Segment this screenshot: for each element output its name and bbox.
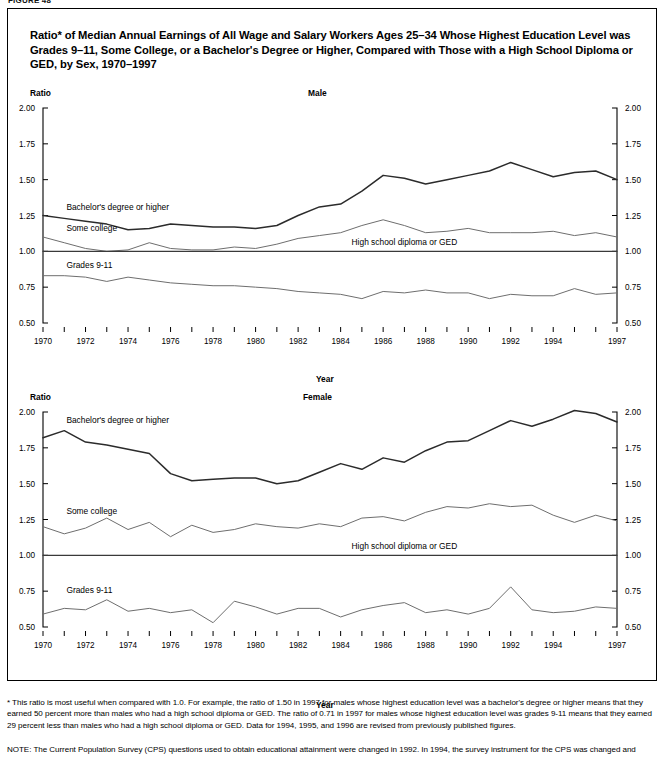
y-tick-label: 1.25	[625, 516, 641, 525]
series-line	[43, 504, 617, 537]
y-tick-label: 2.00	[19, 104, 35, 113]
y-tick-label: 1.75	[625, 444, 641, 453]
figure-number: FIGURE 48	[8, 0, 51, 5]
year-label-male: Year	[316, 374, 334, 384]
y-tick-label: 0.75	[625, 283, 641, 292]
x-tick-label: 1970	[34, 337, 53, 346]
y-tick-label: 0.50	[625, 319, 641, 328]
y-tick-label: 0.50	[19, 623, 35, 632]
x-tick-label: 1992	[502, 641, 521, 650]
y-tick-label: 0.75	[625, 587, 641, 596]
x-tick-label: 1984	[332, 337, 351, 346]
y-tick-label: 2.00	[625, 104, 641, 113]
ratio-label-female: Ratio	[30, 392, 51, 402]
x-tick-label: 1972	[76, 337, 95, 346]
series-line	[43, 162, 617, 229]
x-tick-label: 1978	[204, 337, 223, 346]
x-tick-label: 1990	[459, 337, 478, 346]
y-tick-label: 1.50	[19, 480, 35, 489]
x-tick-label: 1984	[332, 641, 351, 650]
y-tick-label: 1.75	[19, 444, 35, 453]
series-line	[43, 587, 617, 623]
series-label: Grades 9-11	[66, 260, 112, 270]
x-tick-label: 1994	[544, 641, 563, 650]
x-tick-label: 1997	[608, 337, 627, 346]
series-label: Some college	[66, 506, 117, 516]
series-line	[43, 220, 617, 252]
y-tick-label: 0.75	[19, 587, 35, 596]
y-tick-label: 2.00	[19, 408, 35, 417]
y-tick-label: 0.50	[19, 319, 35, 328]
x-tick-label: 1976	[161, 337, 180, 346]
x-tick-label: 1988	[417, 337, 436, 346]
series-line	[43, 276, 617, 299]
ratio-label-male: Ratio	[30, 88, 51, 98]
note-text: NOTE: The Current Population Survey (CPS…	[7, 744, 663, 761]
y-tick-label: 1.00	[19, 247, 35, 256]
panel-label-female: Female	[303, 392, 332, 402]
x-tick-label: 1978	[204, 641, 223, 650]
y-tick-label: 0.50	[625, 623, 641, 632]
y-tick-label: 1.25	[19, 516, 35, 525]
y-tick-label: 1.25	[625, 212, 641, 221]
series-label: Some college	[66, 223, 117, 233]
y-tick-label: 0.75	[19, 283, 35, 292]
x-tick-label: 1997	[608, 641, 627, 650]
x-tick-label: 1994	[544, 337, 563, 346]
series-label: High school diploma or GED	[352, 237, 458, 247]
y-tick-label: 1.00	[625, 247, 641, 256]
y-tick-label: 1.75	[19, 140, 35, 149]
x-tick-label: 1976	[161, 641, 180, 650]
x-tick-label: 1982	[289, 641, 308, 650]
x-tick-label: 1988	[417, 641, 436, 650]
y-tick-label: 2.00	[625, 408, 641, 417]
x-tick-label: 1974	[119, 337, 138, 346]
series-label: Bachelor's degree or higher	[66, 415, 169, 425]
y-tick-label: 1.25	[19, 212, 35, 221]
female-chart: 0.500.500.750.751.001.001.251.251.501.50…	[0, 392, 663, 692]
x-tick-label: 1980	[246, 337, 265, 346]
x-tick-label: 1980	[246, 641, 265, 650]
y-tick-label: 1.00	[19, 551, 35, 560]
x-tick-label: 1970	[34, 641, 53, 650]
x-tick-label: 1986	[374, 641, 393, 650]
x-tick-label: 1982	[289, 337, 308, 346]
page-title: Ratio* of Median Annual Earnings of All …	[30, 28, 638, 72]
y-tick-label: 1.00	[625, 551, 641, 560]
series-label: High school diploma or GED	[352, 541, 458, 551]
x-tick-label: 1990	[459, 641, 478, 650]
x-tick-label: 1986	[374, 337, 393, 346]
footnote-text: * This ratio is most useful when compare…	[7, 697, 655, 731]
y-tick-label: 1.50	[625, 176, 641, 185]
male-chart: 0.500.500.750.751.001.001.251.251.501.50…	[0, 88, 663, 388]
y-tick-label: 1.50	[625, 480, 641, 489]
panel-label-male: Male	[308, 88, 327, 98]
series-label: Grades 9-11	[66, 585, 112, 595]
x-tick-label: 1974	[119, 641, 138, 650]
y-tick-label: 1.50	[19, 176, 35, 185]
x-tick-label: 1972	[76, 641, 95, 650]
x-tick-label: 1992	[502, 337, 521, 346]
y-tick-label: 1.75	[625, 140, 641, 149]
series-label: Bachelor's degree or higher	[66, 202, 169, 212]
